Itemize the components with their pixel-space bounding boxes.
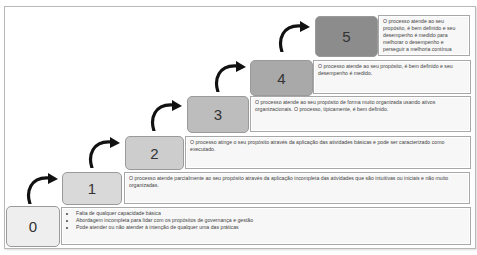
- curved-arrow-icon: [276, 18, 310, 52]
- level-5-number: 5: [342, 28, 350, 45]
- curved-arrow-icon: [86, 134, 120, 168]
- level-1-box: 1: [62, 172, 122, 205]
- curved-arrow-icon: [212, 58, 246, 92]
- level-1-number: 1: [88, 180, 96, 197]
- level-1-description: O processo atende parcialmente ao seu pr…: [124, 172, 470, 204]
- level-2-description: O processo atinge o seu propósito atravé…: [185, 136, 471, 169]
- level-0-bullet: Pode atender ou não atender à intenção d…: [76, 224, 466, 231]
- level-2-box: 2: [125, 136, 184, 170]
- level-4-description: O processo atende ao seu propósito, é be…: [313, 60, 471, 94]
- curved-arrow-icon: [148, 97, 182, 131]
- level-3-box: 3: [187, 96, 249, 133]
- level-0-description: Falta de qualquer capacidade básica Abor…: [61, 207, 471, 245]
- level-0-number: 0: [29, 218, 37, 235]
- level-3-description: O processo atende ao seu propósito de fo…: [250, 96, 471, 132]
- level-0-bullet: Falta de qualquer capacidade básica: [76, 210, 466, 217]
- level-0-box: 0: [6, 206, 60, 247]
- level-3-number: 3: [214, 106, 222, 123]
- level-5-description: O processo atende ao seu propósito, é be…: [378, 15, 470, 56]
- level-4-number: 4: [277, 70, 285, 87]
- level-2-number: 2: [150, 145, 158, 162]
- curved-arrow-icon: [24, 170, 58, 204]
- level-5-box: 5: [315, 16, 378, 57]
- level-0-bullet: Abordagem incompleta para lidar com os p…: [76, 217, 466, 224]
- level-4-box: 4: [250, 60, 313, 96]
